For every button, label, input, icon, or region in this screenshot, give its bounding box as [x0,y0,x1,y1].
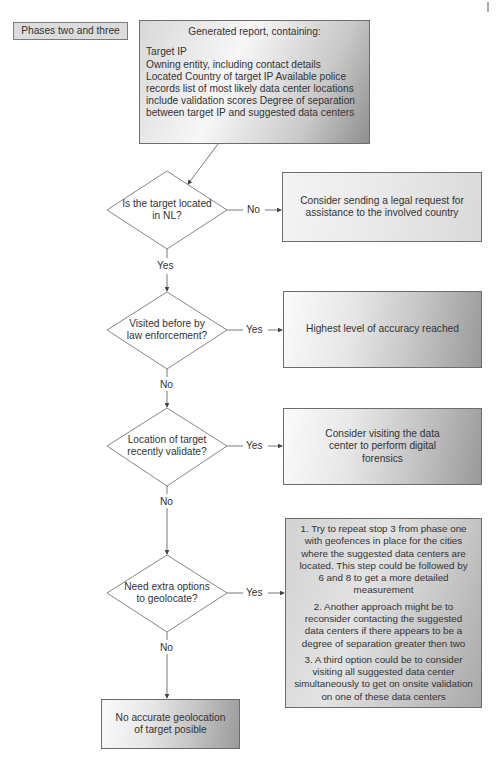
option-text-line: 3. A third option could be to consider [294,654,473,666]
decision-4-text: Need extra options to geolocate? [112,581,222,606]
option-text-line: measurement [299,584,467,596]
option-1-paragraph: 1. Try to repeat stop 3 from phase one w… [299,523,467,597]
outcome-visit-data-center-box: Consider visiting the data center to per… [283,408,482,485]
generated-report-box: Generated report, containing: Target IP … [139,20,370,144]
option-text-line: visiting all suggested data center [294,666,473,678]
decision-text-line: recently validate? [112,446,222,458]
outcome-text-line: Consider sending a legal request for [300,195,464,207]
outcome-text-line: Highest level of accuracy reached [306,323,459,335]
decision-text-line: Is the target located [112,198,222,210]
report-line: Target IP [146,46,187,58]
edge-label-d2-side: Yes [246,324,263,335]
outcome-text-line: Consider visiting the data [325,428,439,440]
decision-text-line: Location of target [112,434,222,446]
edge-label-d4-side: Yes [246,587,263,598]
report-title: Generated report, containing: [146,26,363,38]
outcome-legal-request-box: Consider sending a legal request for ass… [282,172,482,242]
option-text-line: data centers if there appears to be a [302,625,465,637]
decision-text-line: law enforcement? [112,330,222,342]
option-text-line: 2. Another approach might be to [302,601,465,613]
outcome-text-line: center to perform digital [329,440,436,452]
phase-label: Phases two and three [13,22,128,40]
report-line: Owning entity, including contact details [146,59,321,71]
decision-3-text: Location of target recently validate? [112,434,222,459]
decision-text-line: in NL? [112,210,222,222]
edge-label-d1-side: No [247,204,260,215]
decision-2-text: Visited before by law enforcement? [112,318,222,343]
option-text-line: where the suggested data centers are [299,548,467,560]
option-2-paragraph: 2. Another approach might be to reconsid… [302,601,465,650]
final-text-line: of target posible [134,724,207,736]
final-text-line: No accurate geolocation [116,712,226,724]
option-text-line: reconsider contacting the suggested [302,613,465,625]
edge-label-d3-side: Yes [246,440,263,451]
decision-1-text: Is the target located in NL? [112,198,222,223]
option-text-line: 1. Try to repeat stop 3 from phase one [299,523,467,535]
outcome-extra-options-box: 1. Try to repeat stop 3 from phase one w… [285,518,482,708]
outcome-highest-accuracy-box: Highest level of accuracy reached [283,291,482,368]
edge-label-d2-down: No [160,379,173,390]
option-text-line: on one of these data centers [294,691,473,703]
option-text-line: with geofences in place for the cities [299,535,467,547]
report-line: records list of most likely data center … [146,83,354,95]
option-text-line: 6 and 8 to get a more detailed [299,572,467,584]
edge-label-d4-down: No [160,642,173,653]
decision-text-line: Visited before by [112,318,222,330]
decision-text-line: Need extra options [112,581,222,593]
report-line: Located Country of target IP Available p… [146,71,346,83]
option-text-line: simultaneously to get on onsite validati… [294,678,473,690]
connector-report-to-decision-1 [188,144,218,184]
option-3-paragraph: 3. A third option could be to consider v… [294,654,473,703]
report-line: between target IP and suggested data cen… [146,107,354,119]
edge-label-d1-down: Yes [157,260,174,271]
decision-text-line: to geolocate? [112,593,222,605]
outcome-text-line: assistance to the involved country [306,207,459,219]
final-no-geolocation-box: No accurate geolocation of target posibl… [101,699,240,749]
report-line: include validation scores Degree of sepa… [146,95,355,107]
option-text-line: degree of separation greater then two [302,638,465,650]
edge-label-d3-down: No [160,496,173,507]
outcome-text-line: forensics [362,453,403,465]
option-text-line: located. This step could be followed by [299,560,467,572]
